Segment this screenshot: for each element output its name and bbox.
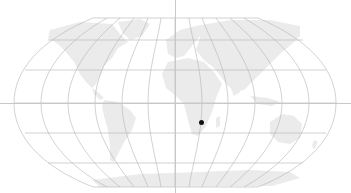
- crosshair-vertical: [175, 0, 176, 193]
- australia: [270, 114, 302, 144]
- location-marker[interactable]: [199, 120, 204, 125]
- north-america: [48, 22, 128, 88]
- europe: [166, 26, 200, 58]
- south-america: [102, 100, 136, 162]
- india: [230, 76, 242, 96]
- central-america: [92, 88, 104, 100]
- world-map[interactable]: [0, 0, 351, 193]
- madagascar: [216, 116, 220, 128]
- crosshair-horizontal: [0, 103, 351, 104]
